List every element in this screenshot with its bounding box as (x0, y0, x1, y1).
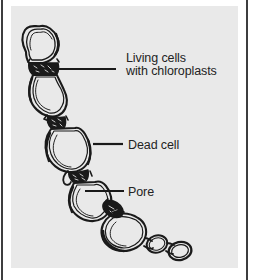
chloroplast-band-middle (44, 115, 68, 128)
diagram-labels: Living cells with chloroplasts Dead cell… (125, 51, 217, 199)
terminal-vesicle-small (144, 233, 170, 256)
label-dead-cell: Dead cell (128, 138, 179, 152)
label-living-cells-line2: with chloroplasts (125, 64, 217, 78)
living-cell-bottom (101, 211, 146, 251)
chloroplast-band-upper (28, 59, 59, 74)
living-cell-top (22, 26, 58, 63)
dead-cell-middle (46, 128, 91, 172)
cell-chain-diagram: Living cells with chloroplasts Dead cell… (0, 0, 257, 280)
living-cell-upper-middle (29, 75, 67, 117)
label-living-cells-line1: Living cells (126, 51, 186, 65)
terminal-vesicle-end (166, 240, 193, 262)
label-pore: Pore (128, 185, 154, 199)
